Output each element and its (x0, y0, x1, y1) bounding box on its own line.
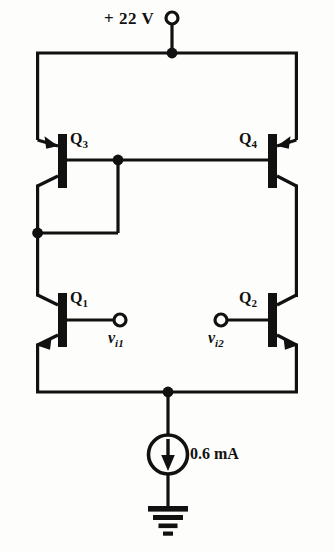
circuit-diagram-page: + 22 V Q3 Q4 Q1 Q2 vi1 vi2 0.6 mA (0, 0, 335, 552)
q3-label-name: Q (70, 130, 82, 147)
vi1-label-index: i1 (115, 337, 124, 349)
q4-collector-slant-wire (277, 176, 296, 186)
vi1-label: vi1 (108, 330, 124, 349)
q1-base-bar (58, 293, 67, 347)
q1-label-index: 1 (82, 297, 88, 309)
q2-collector-slant-wire (277, 295, 296, 305)
q1-collector-slant-wire (38, 295, 58, 305)
supply-voltage-label: + 22 V (104, 10, 154, 27)
q2-base-bar (268, 293, 277, 347)
q3-label: Q3 (70, 131, 88, 150)
q4-label: Q4 (239, 131, 257, 150)
q4-label-name: Q (239, 130, 251, 147)
circuit-schematic-svg (0, 0, 335, 552)
current-source-label: 0.6 mA (190, 446, 239, 462)
vi1-terminal-circle (114, 314, 126, 326)
q1-label: Q1 (70, 290, 88, 309)
q3-base-bar (58, 134, 67, 188)
q4-base-bar (268, 134, 277, 188)
q3-collector-slant-wire (38, 176, 58, 186)
vi2-label: vi2 (208, 330, 224, 349)
supply-terminal-circle (166, 12, 178, 24)
q2-label: Q2 (239, 290, 257, 309)
vi2-terminal-circle (215, 314, 227, 326)
q1-label-name: Q (70, 289, 82, 306)
earth-ground-icon (148, 506, 188, 536)
q2-label-index: 2 (251, 297, 257, 309)
q4-label-index: 4 (251, 138, 257, 150)
supply-junction-dot (167, 48, 178, 59)
vi2-label-index: i2 (215, 337, 224, 349)
q2-label-name: Q (239, 289, 251, 306)
q3-label-index: 3 (82, 138, 88, 150)
